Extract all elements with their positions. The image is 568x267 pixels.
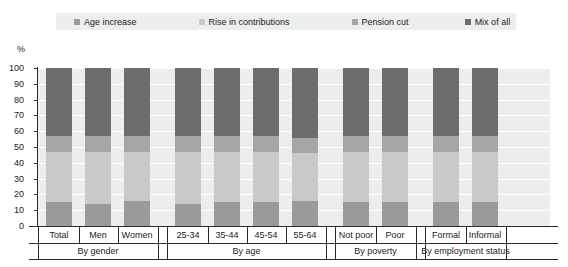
legend-label-pension-cut: Pension cut bbox=[362, 17, 409, 27]
bar-segment-age-increase[interactable] bbox=[124, 201, 150, 226]
bar-segment-pension-cut[interactable] bbox=[85, 136, 111, 152]
bar-segment-rise-in-contributions[interactable] bbox=[85, 152, 111, 204]
y-axis-label: 30 bbox=[2, 174, 24, 183]
x-axis-separator bbox=[425, 227, 426, 243]
x-axis-group-label-by-gender: By gender bbox=[28, 246, 168, 256]
bar-segment-pension-cut[interactable] bbox=[253, 136, 279, 152]
bar-segment-rise-in-contributions[interactable] bbox=[433, 152, 459, 203]
bar-segment-pension-cut[interactable] bbox=[472, 136, 498, 152]
bar-segment-rise-in-contributions[interactable] bbox=[343, 152, 369, 203]
bar-poor[interactable] bbox=[382, 68, 408, 226]
legend-item-mix-of-all[interactable]: Mix of all bbox=[465, 17, 511, 27]
x-axis-separator bbox=[466, 227, 467, 243]
x-axis-separator bbox=[158, 227, 159, 243]
y-axis-tick bbox=[34, 100, 38, 101]
bar-segment-age-increase[interactable] bbox=[343, 202, 369, 226]
bar-men[interactable] bbox=[85, 68, 111, 226]
bar-segment-mix-of-all[interactable] bbox=[175, 68, 201, 136]
x-axis-group-separator bbox=[38, 243, 39, 260]
bar-segment-pension-cut[interactable] bbox=[214, 136, 240, 152]
bar-segment-pension-cut[interactable] bbox=[433, 136, 459, 152]
bar-segment-pension-cut[interactable] bbox=[292, 138, 318, 154]
bar-55-64[interactable] bbox=[292, 68, 318, 226]
x-axis-label-poor: Poor bbox=[369, 230, 421, 240]
y-axis-tick bbox=[34, 115, 38, 116]
y-axis-label: 90 bbox=[2, 79, 24, 88]
x-axis-separator bbox=[38, 227, 39, 243]
x-axis-group-separator bbox=[335, 243, 336, 260]
bar-segment-age-increase[interactable] bbox=[85, 204, 111, 226]
x-axis-separator bbox=[376, 227, 377, 243]
bar-45-54[interactable] bbox=[253, 68, 279, 226]
y-axis-tick bbox=[34, 194, 38, 195]
bar-segment-rise-in-contributions[interactable] bbox=[124, 152, 150, 201]
legend-item-age-increase[interactable]: Age increase bbox=[74, 17, 137, 27]
bar-segment-mix-of-all[interactable] bbox=[214, 68, 240, 136]
y-axis-label: 80 bbox=[2, 95, 24, 104]
bar-segment-rise-in-contributions[interactable] bbox=[472, 152, 498, 203]
bar-segment-pension-cut[interactable] bbox=[124, 136, 150, 152]
bar-25-34[interactable] bbox=[175, 68, 201, 226]
bar-segment-mix-of-all[interactable] bbox=[46, 68, 72, 136]
bar-segment-pension-cut[interactable] bbox=[343, 136, 369, 152]
y-axis-tick bbox=[34, 163, 38, 164]
x-axis-group-labels: By genderBy ageBy povertyBy employment s… bbox=[29, 243, 558, 260]
y-axis-tick bbox=[34, 210, 38, 211]
x-axis-separator bbox=[208, 227, 209, 243]
bar-segment-age-increase[interactable] bbox=[46, 202, 72, 226]
bar-not-poor[interactable] bbox=[343, 68, 369, 226]
y-axis-label: 70 bbox=[2, 111, 24, 120]
legend-swatch-age-increase bbox=[74, 19, 80, 25]
y-axis-tick bbox=[34, 131, 38, 132]
x-axis-group-separator bbox=[506, 243, 507, 260]
legend-item-pension-cut[interactable]: Pension cut bbox=[352, 17, 409, 27]
legend-item-rise-in-contributions[interactable]: Rise in contributions bbox=[199, 17, 290, 27]
bar-segment-age-increase[interactable] bbox=[253, 202, 279, 226]
bar-segment-rise-in-contributions[interactable] bbox=[292, 153, 318, 200]
bar-formal[interactable] bbox=[433, 68, 459, 226]
legend-swatch-pension-cut bbox=[352, 19, 358, 25]
bar-segment-pension-cut[interactable] bbox=[175, 136, 201, 152]
group-band-bottom-line bbox=[29, 259, 558, 260]
bar-segment-mix-of-all[interactable] bbox=[472, 68, 498, 136]
x-axis-group-separator bbox=[167, 243, 168, 260]
bar-35-44[interactable] bbox=[214, 68, 240, 226]
bar-segment-rise-in-contributions[interactable] bbox=[175, 152, 201, 204]
bar-segment-age-increase[interactable] bbox=[292, 201, 318, 226]
y-axis-tick bbox=[34, 84, 38, 85]
bar-segment-mix-of-all[interactable] bbox=[433, 68, 459, 136]
bar-segment-rise-in-contributions[interactable] bbox=[382, 152, 408, 203]
y-axis-tick bbox=[34, 179, 38, 180]
bar-segment-age-increase[interactable] bbox=[382, 202, 408, 226]
legend-swatch-mix-of-all bbox=[465, 19, 471, 25]
y-axis-label: 50 bbox=[2, 143, 24, 152]
bar-segment-mix-of-all[interactable] bbox=[85, 68, 111, 136]
bar-segment-rise-in-contributions[interactable] bbox=[46, 152, 72, 203]
bar-informal[interactable] bbox=[472, 68, 498, 226]
x-axis-separator bbox=[247, 227, 248, 243]
bar-segment-mix-of-all[interactable] bbox=[382, 68, 408, 136]
bar-segment-rise-in-contributions[interactable] bbox=[253, 152, 279, 203]
x-axis-separator bbox=[326, 227, 327, 243]
bar-segment-age-increase[interactable] bbox=[214, 202, 240, 226]
bar-segment-mix-of-all[interactable] bbox=[292, 68, 318, 138]
bar-segment-rise-in-contributions[interactable] bbox=[214, 152, 240, 203]
x-axis-separator bbox=[118, 227, 119, 243]
bar-total[interactable] bbox=[46, 68, 72, 226]
bar-segment-age-increase[interactable] bbox=[175, 204, 201, 226]
bar-segment-pension-cut[interactable] bbox=[46, 136, 72, 152]
y-axis-label: 0 bbox=[2, 222, 24, 231]
bar-segment-mix-of-all[interactable] bbox=[343, 68, 369, 136]
bar-segment-age-increase[interactable] bbox=[433, 202, 459, 226]
bar-segment-mix-of-all[interactable] bbox=[124, 68, 150, 136]
y-axis-label: 10 bbox=[2, 206, 24, 215]
bar-segment-mix-of-all[interactable] bbox=[253, 68, 279, 136]
bar-women[interactable] bbox=[124, 68, 150, 226]
legend-label-age-increase: Age increase bbox=[84, 17, 137, 27]
bar-segment-pension-cut[interactable] bbox=[382, 136, 408, 152]
x-axis-separator bbox=[286, 227, 287, 243]
x-axis-label-55-64: 55-64 bbox=[279, 230, 331, 240]
x-axis-separator bbox=[506, 227, 507, 243]
bar-segment-age-increase[interactable] bbox=[472, 202, 498, 226]
y-axis-unit-label: % bbox=[17, 44, 25, 54]
